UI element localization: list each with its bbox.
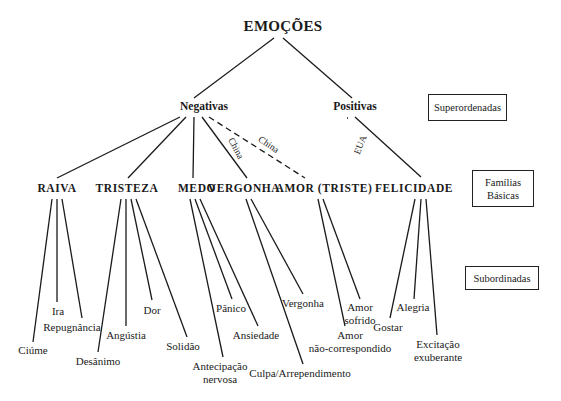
node-positivas: Positivas	[333, 101, 376, 113]
root-node-emocoes: EMOÇÕES	[244, 19, 323, 34]
sub-repugnancia: Repugnância	[43, 321, 100, 334]
sub-amor-sofrido: Amor sofrido	[344, 301, 375, 327]
sub-desanimo: Desânimo	[76, 355, 121, 368]
sub-ansiedade: Ansiedade	[233, 329, 279, 342]
sub-excitacao-line2: exuberante	[414, 351, 462, 364]
sub-solidao: Solidão	[166, 340, 200, 353]
sub-antecipacao-line2: nervosa	[193, 373, 248, 386]
sub-amor-nc-line2: não-correspondido	[309, 342, 391, 355]
sub-culpa-arrependimento: Culpa/Arrependimento	[249, 367, 350, 380]
node-amor-triste: AMOR (TRISTE)	[276, 183, 373, 195]
level-label-superordenadas-text: Superordenadas	[434, 101, 501, 114]
sub-angustia: Angústia	[106, 329, 146, 342]
sub-vergonha: Vergonha	[282, 297, 324, 310]
node-vergonha: VERGONHA	[208, 183, 281, 195]
sub-ira: Ira	[52, 305, 64, 318]
sub-excitacao-exuberante: Excitação exuberante	[414, 338, 462, 364]
sub-antecipacao-line1: Antecipação	[193, 360, 248, 373]
node-negativas: Negativas	[180, 101, 228, 113]
sub-panico: Pânico	[216, 302, 246, 315]
sub-amor-sofrido-line2: sofrido	[344, 314, 375, 327]
level-label-basicas-line2: Básicas	[487, 189, 519, 202]
level-label-familias-basicas: Famílias Básicas	[472, 170, 534, 207]
level-label-subordinadas: Subordinadas	[465, 266, 539, 290]
sub-excitacao-line1: Excitação	[414, 338, 462, 351]
node-tristeza: TRISTEZA	[96, 183, 159, 195]
level-label-subordinadas-text: Subordinadas	[473, 272, 530, 285]
sub-antecipacao-nervosa: Antecipação nervosa	[193, 360, 248, 386]
sub-dor: Dor	[143, 304, 160, 317]
level-label-basicas-line1: Famílias	[485, 176, 521, 189]
sub-alegria: Alegria	[397, 301, 430, 314]
sub-gostar: Gostar	[373, 321, 402, 334]
level-label-superordenadas: Superordenadas	[428, 94, 507, 121]
node-raiva: RAIVA	[37, 183, 76, 195]
sub-amor-sofrido-line1: Amor	[344, 301, 375, 314]
node-felicidade: FELICIDADE	[375, 183, 453, 195]
sub-ciume: Ciúme	[18, 344, 47, 357]
